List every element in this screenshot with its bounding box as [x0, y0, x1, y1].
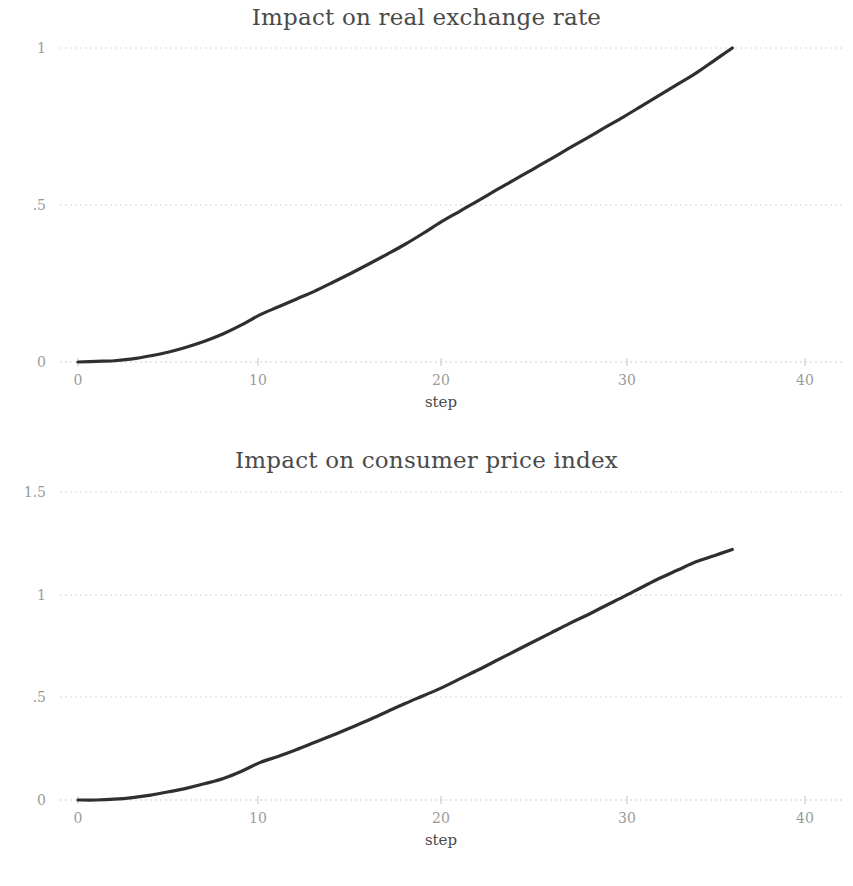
xtick-label-1-0: 0: [74, 372, 83, 388]
xtick-label-1-30: 30: [618, 372, 636, 388]
ytick-label-2-2: 1: [4, 587, 46, 603]
xtick-label-2-0: 0: [74, 810, 83, 826]
figure-container: Impact on real exchange rate 1 .5 0 0 10: [0, 0, 853, 886]
plot-svg-2: [0, 443, 853, 886]
xtick-label-2-40: 40: [796, 810, 814, 826]
xaxis-title-1: step: [425, 393, 457, 411]
ytick-label-1-0: 0: [10, 354, 46, 370]
ytick-label-2-1: .5: [4, 689, 46, 705]
xtick-label-1-20: 20: [432, 372, 450, 388]
xtick-label-2-10: 10: [249, 810, 267, 826]
xtick-label-1-40: 40: [796, 372, 814, 388]
plot-area-2: 1.5 1 .5 0 0 10 20 30 40 step: [0, 443, 853, 886]
ytick-label-2-0: 0: [4, 792, 46, 808]
xtick-label-2-20: 20: [432, 810, 450, 826]
xtick-label-1-10: 10: [249, 372, 267, 388]
xaxis-title-2: step: [425, 831, 457, 849]
xtick-label-2-30: 30: [618, 810, 636, 826]
panel-real-exchange-rate: Impact on real exchange rate 1 .5 0 0 10: [0, 0, 853, 443]
plot-area-1: 1 .5 0 0 10 20 30 40 step: [0, 0, 853, 443]
ytick-label-1-2: 1: [10, 40, 46, 56]
series-line-consumer-price-index: [78, 549, 732, 800]
ytick-label-2-3: 1.5: [4, 484, 46, 500]
plot-svg-1: [0, 0, 853, 443]
panel-consumer-price-index: Impact on consumer price index 1.5 1 .5 …: [0, 443, 853, 886]
ytick-label-1-1: .5: [10, 197, 46, 213]
